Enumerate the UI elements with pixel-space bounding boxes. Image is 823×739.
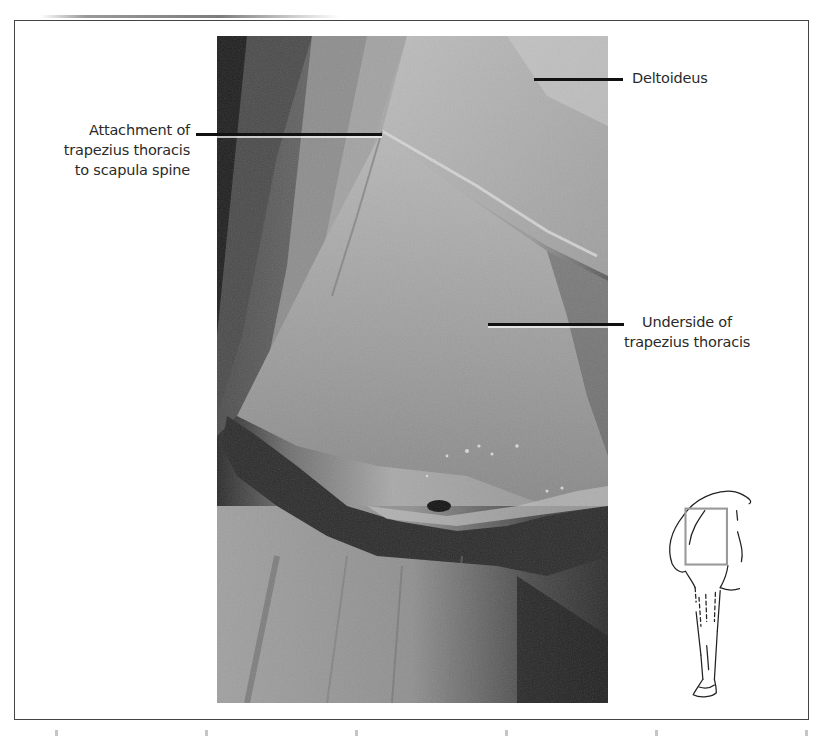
label-trapezius-underside-line-2: trapezius thoracis	[612, 333, 762, 352]
label-trapezius-underside-line-1: Underside of	[612, 313, 762, 332]
trapezius-underside-leader-line	[488, 323, 624, 326]
label-trapezius-attachment-line-1: Attachment of	[42, 121, 190, 140]
horse-forelimb-sketch-icon	[645, 475, 780, 710]
trapezius-attachment-leader-line	[196, 133, 382, 136]
label-trapezius-attachment-line-3: to scapula spine	[42, 161, 190, 180]
orientation-inset	[645, 475, 780, 710]
label-trapezius-attachment-line-2: trapezius thoracis	[42, 141, 190, 160]
region-highlight-box	[686, 509, 727, 565]
bleed-through-artifact-top	[40, 15, 340, 18]
label-deltoideus: Deltoideus	[632, 69, 708, 88]
deltoideus-leader-line	[534, 78, 623, 81]
bleed-through-artifact-bottom	[0, 730, 823, 736]
